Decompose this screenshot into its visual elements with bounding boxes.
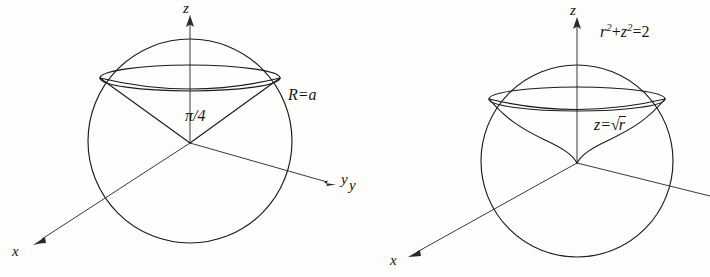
right-x-axis-arrowhead [408,250,421,257]
right-cusp-profile-left [489,99,577,163]
right-panel-group [408,17,710,257]
left-y-axis-label: y [341,172,348,187]
sphere-eq-plus: + [612,23,621,40]
right-x-axis-line [417,163,577,252]
right-x-axis-label: x [390,253,397,268]
right-sphere-equation-label: r2+z2=2 [600,22,649,40]
sphere-eq-tail: =2 [632,23,649,40]
figure-root: z y x π/4 R=a z y x r2+z2=2 z=√r [0,0,710,277]
left-y-axis-arrowhead [324,180,336,186]
left-angle-label: π/4 [185,108,205,124]
left-x-axis-label: x [12,244,19,259]
left-panel-group [33,15,336,245]
surface-eq-lhs: z= [594,116,611,133]
left-z-axis-label: z [183,1,189,16]
left-cone-generator-left [100,78,190,143]
left-radius-label: R=a [288,87,317,103]
right-z-axis-label: z [570,3,576,18]
right-y-axis-line [577,163,710,196]
left-x-axis-arrowhead [33,237,46,245]
surface-eq-radicand: r [619,116,626,133]
left-x-axis-line [42,143,190,239]
diagram-canvas [0,0,710,277]
left-y-axis-line [190,143,327,182]
right-surface-equation-label: z=√r [594,116,626,133]
right-y-axis-label: y [349,178,356,193]
